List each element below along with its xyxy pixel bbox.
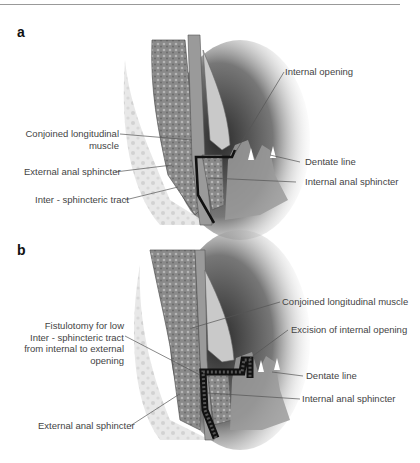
label-internal-anal-sphincter: Internal anal sphincter: [302, 393, 395, 405]
label-dentate-line: Dentate line: [305, 156, 356, 168]
panel-letter-b: b: [17, 242, 26, 258]
label-conjoined-longitudinal-muscle: Conjoined longitudinal muscle: [20, 128, 119, 151]
label-excision-internal-opening: Excision of internal opening: [291, 324, 407, 336]
label-external-anal-sphincter: External anal sphincter: [24, 166, 121, 178]
label-line: muscle: [20, 140, 119, 152]
label-line: opening: [10, 355, 124, 367]
label-conjoined-longitudinal-muscle: Conjoined longitudinal muscle: [282, 296, 408, 308]
label-line: from internal to external: [10, 343, 124, 355]
label-line: Fistulotomy for low: [10, 320, 124, 332]
label-line: Conjoined longitudinal: [20, 128, 119, 140]
panel-a-drawing: [124, 35, 310, 240]
label-dentate-line: Dentate line: [306, 370, 357, 382]
panel-letter-a: a: [17, 24, 25, 40]
panel-b-drawing: [134, 230, 310, 450]
label-internal-anal-sphincter: Internal anal sphincter: [305, 176, 398, 188]
label-line: Inter - sphincteric tract: [10, 332, 124, 344]
label-fistulotomy: Fistulotomy for low Inter - sphincteric …: [10, 320, 124, 366]
label-internal-opening: Internal opening: [285, 66, 353, 78]
label-inter-sphincteric-tract: Inter - sphincteric tract: [35, 194, 129, 206]
label-external-anal-sphincter: External anal sphincter: [38, 420, 135, 432]
